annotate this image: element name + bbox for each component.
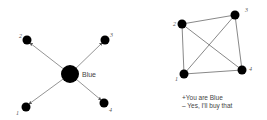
- edge-1-3: [184, 15, 235, 74]
- right-node-1: [180, 70, 189, 79]
- left-star-diagram: Blue 2 3 1 4: [16, 32, 113, 116]
- right-node-4-label: 4: [249, 66, 252, 72]
- edge-3-4: [235, 15, 242, 70]
- right-node-2-label: 2: [173, 21, 176, 27]
- right-complete-graph: 1 2 3 4: [173, 7, 252, 82]
- right-node-3-label: 3: [244, 7, 248, 13]
- left-node-4: [100, 99, 109, 108]
- caption-line-1: +You are Blue: [182, 94, 223, 102]
- edge-1-2: [182, 24, 184, 74]
- edge-2-3: [182, 15, 235, 24]
- left-node-3: [101, 36, 110, 45]
- center-node-label: Blue: [82, 71, 96, 78]
- left-node-3-label: 3: [109, 32, 113, 38]
- left-node-4-label: 4: [109, 107, 112, 113]
- left-node-1-label: 1: [16, 110, 19, 116]
- caption-line-2: – Yes, I'll buy that: [182, 102, 232, 110]
- right-node-4: [238, 66, 247, 75]
- right-node-2: [178, 20, 187, 29]
- left-node-2-label: 2: [19, 33, 22, 39]
- edge-4-1: [184, 70, 242, 74]
- center-node-blue: [61, 65, 79, 83]
- right-node-3: [231, 11, 240, 20]
- edge-2-4: [182, 24, 242, 70]
- left-node-2: [23, 36, 32, 45]
- right-node-1-label: 1: [175, 76, 178, 82]
- left-node-1: [22, 103, 31, 112]
